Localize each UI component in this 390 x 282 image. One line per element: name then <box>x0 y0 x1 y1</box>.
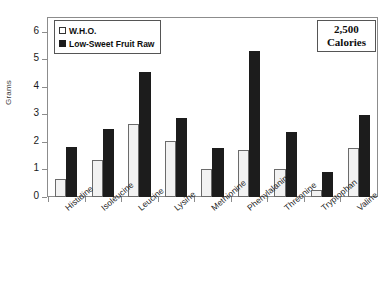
bar <box>103 129 114 197</box>
empty-square-marker-icon <box>59 27 66 34</box>
y-tick-label: 4 <box>9 80 39 91</box>
y-tick-5: 5 <box>0 59 47 60</box>
bar <box>66 147 77 197</box>
bar <box>176 118 187 197</box>
x-tick-mark <box>231 197 232 202</box>
calorie-annotation: 2,500 Calories <box>317 20 376 52</box>
y-tick-1: 1 <box>0 169 47 170</box>
x-tick-mark <box>340 197 341 202</box>
calorie-unit: Calories <box>327 36 366 49</box>
legend-item-low-sweet-fruit-raw: Low-Sweet Fruit Raw <box>59 37 154 50</box>
calorie-value: 2,500 <box>327 23 366 36</box>
x-tick-mark <box>158 197 159 202</box>
x-tick-mark <box>267 197 268 202</box>
filled-square-marker-icon <box>59 40 66 47</box>
y-tick-mark <box>42 197 47 198</box>
x-tick-mark <box>85 197 86 202</box>
y-tick-label: 5 <box>9 52 39 63</box>
x-tick-mark <box>48 197 49 202</box>
legend-label-low-sweet-fruit-raw: Low-Sweet Fruit Raw <box>69 39 154 49</box>
bar-chart: Grams 0123456 HistidineIsoleucineLeucine… <box>0 0 390 282</box>
bar-group <box>158 18 195 197</box>
y-tick-label: 3 <box>9 107 39 118</box>
bar <box>201 169 212 197</box>
bar <box>165 141 176 197</box>
legend-item-who: W.H.O. <box>59 24 154 37</box>
legend: W.H.O. Low-Sweet Fruit Raw <box>54 20 161 54</box>
x-tick-mark <box>194 197 195 202</box>
y-tick-6: 6 <box>0 32 47 33</box>
legend-label-who: W.H.O. <box>69 26 96 36</box>
bar-group <box>194 18 231 197</box>
y-tick-2: 2 <box>0 142 47 143</box>
bar <box>139 72 150 197</box>
y-tick-0: 0 <box>0 197 47 198</box>
y-tick-3: 3 <box>0 114 47 115</box>
bar <box>212 148 223 197</box>
bar <box>55 179 66 197</box>
y-tick-label: 1 <box>9 162 39 173</box>
y-tick-4: 4 <box>0 87 47 88</box>
bar-group <box>231 18 268 197</box>
bar <box>249 51 260 197</box>
x-tick-mark <box>121 197 122 202</box>
bar <box>359 115 370 197</box>
x-tick-mark <box>304 197 305 202</box>
y-tick-label: 0 <box>9 190 39 201</box>
y-tick-label: 2 <box>9 135 39 146</box>
bar <box>286 132 297 197</box>
y-tick-label: 6 <box>9 25 39 36</box>
